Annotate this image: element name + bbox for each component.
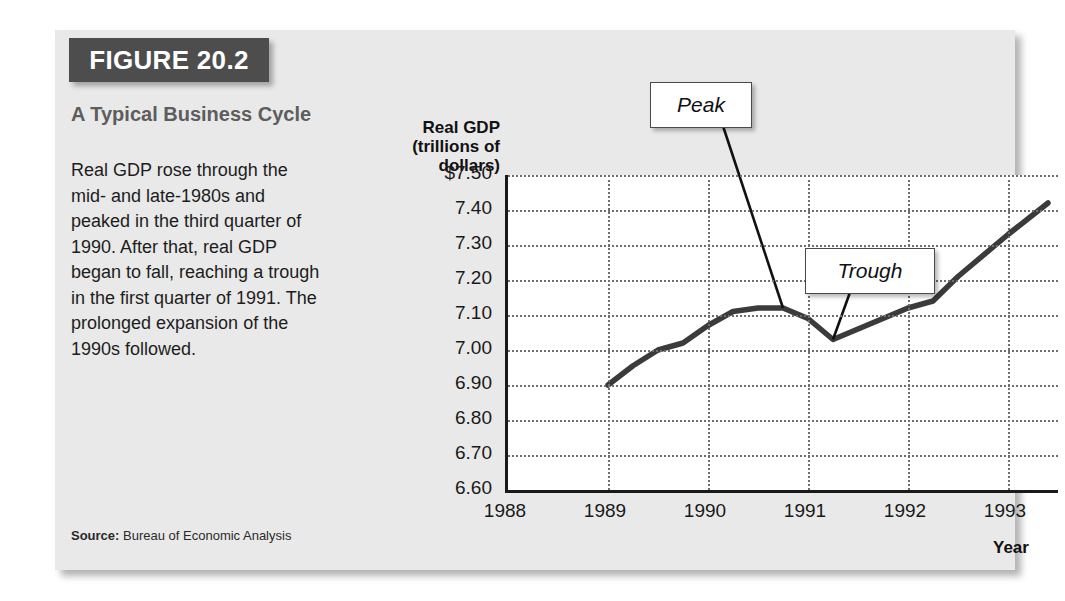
data-series-line [608, 203, 1048, 385]
figure-root: FIGURE 20.2 A Typical Business Cycle Rea… [0, 0, 1065, 601]
x-axis-tick-label: 1988 [460, 500, 550, 522]
x-axis-title: Year [993, 538, 1029, 558]
x-axis-tick-label: 1992 [860, 500, 950, 522]
source-label: Source: [71, 528, 119, 543]
figure-number-label: FIGURE 20.2 [89, 45, 248, 76]
gridline-horizontal [508, 455, 1058, 457]
chart-area: Real GDP (trillions of dollars) $7.507.4… [350, 30, 1015, 570]
annotation-trough-label: Trough [838, 259, 903, 283]
y-axis-tick-label: 6.80 [370, 407, 492, 429]
source-value: Bureau of Economic Analysis [123, 528, 291, 543]
figure-description: Real GDP rose through the mid- and late-… [71, 158, 323, 362]
gridline-horizontal [508, 350, 1058, 352]
x-axis-tick-label: 1991 [760, 500, 850, 522]
y-axis-tick-label: $7.50 [370, 162, 492, 184]
gridline-horizontal [508, 280, 1058, 282]
gridline-vertical [708, 175, 710, 490]
annotation-trough: Trough [805, 248, 935, 294]
gridline-vertical [608, 175, 610, 490]
gridline-vertical [808, 175, 810, 490]
caption-column: FIGURE 20.2 A Typical Business Cycle Rea… [55, 30, 350, 570]
figure-panel: FIGURE 20.2 A Typical Business Cycle Rea… [55, 30, 1015, 570]
y-axis-tick-label: 7.30 [370, 232, 492, 254]
gridline-horizontal [508, 315, 1058, 317]
y-axis-tick-label: 6.70 [370, 442, 492, 464]
y-axis-tick-label: 7.00 [370, 337, 492, 359]
y-axis-tick-label: 6.90 [370, 372, 492, 394]
y-axis-tick-label: 7.40 [370, 197, 492, 219]
x-axis-tick-label: 1989 [560, 500, 650, 522]
annotation-peak: Peak [650, 82, 752, 128]
y-axis-tick-label: 7.10 [370, 302, 492, 324]
gridline-horizontal [508, 420, 1058, 422]
y-axis-tick-label: 6.60 [370, 477, 492, 499]
gridline-horizontal [508, 385, 1058, 387]
gridline-vertical [908, 175, 910, 490]
plot-frame [505, 175, 1058, 493]
plot-canvas [508, 175, 1058, 490]
x-axis-tick-label: 1990 [660, 500, 750, 522]
figure-number-banner: FIGURE 20.2 [69, 38, 269, 82]
x-axis-tick-label: 1993 [960, 500, 1050, 522]
data-line-svg [508, 175, 1058, 490]
gridline-horizontal [508, 210, 1058, 212]
annotation-peak-label: Peak [677, 93, 725, 117]
gridline-horizontal [508, 175, 1058, 177]
gridline-horizontal [508, 245, 1058, 247]
source-note: Source: Bureau of Economic Analysis [71, 528, 291, 543]
gridline-vertical [1008, 175, 1010, 490]
y-axis-tick-label: 7.20 [370, 267, 492, 289]
figure-title: A Typical Business Cycle [71, 102, 326, 126]
